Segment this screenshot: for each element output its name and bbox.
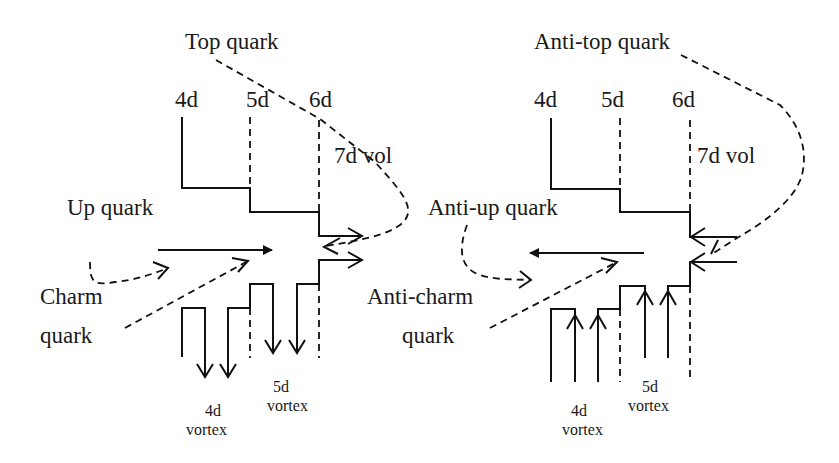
top-quark-label: Top quark (185, 29, 279, 54)
vortex-5d-label-line2: vortex (267, 397, 308, 414)
anti-up-quark-label: Anti-up quark (428, 195, 558, 220)
anti-top-quark-label: Anti-top quark (534, 29, 671, 54)
antiquark-diagram: Anti-top quark 4d 5d 6d 7d vol Anti-up q… (367, 29, 804, 438)
up-quark-path (90, 262, 168, 283)
vortex-4d-label-line1: 4d (571, 402, 587, 419)
dim-4d-label: 4d (534, 87, 558, 112)
vol-7d-label: 7d vol (697, 143, 755, 168)
charm-quark-path (125, 261, 248, 328)
arrowhead-open-icon (324, 238, 340, 254)
quark-antiquark-diagram: Top quark 4d 5d 6d 7d vol Up quark Charm… (0, 0, 839, 463)
dim-5d-label: 5d (601, 87, 625, 112)
vol-7d-label: 7d vol (334, 143, 392, 168)
lower-staircase-mid (228, 284, 273, 377)
upper-staircase (551, 118, 737, 237)
upper-staircase (182, 117, 362, 236)
anti-charm-quark-label-line1: Anti-charm (367, 284, 473, 309)
dim-6d-label: 6d (309, 87, 333, 112)
quark-diagram: Top quark 4d 5d 6d 7d vol Up quark Charm… (40, 29, 408, 438)
dim-6d-label: 6d (672, 87, 696, 112)
dim-5d-label: 5d (246, 87, 270, 112)
vortex-4d-label-line2: vortex (562, 421, 603, 438)
lower-staircase-mid (598, 286, 645, 382)
lower-staircase-left (182, 308, 205, 377)
vortex-5d-label-line1: 5d (642, 378, 658, 395)
lower-staircase-right (297, 260, 362, 352)
vortex-4d-label-line1: 4d (205, 402, 221, 419)
vortex-5d-label-line2: vortex (628, 397, 669, 414)
charm-quark-label-line2: quark (40, 323, 93, 348)
anti-charm-quark-label-line2: quark (402, 323, 455, 348)
arrowhead-open-icon (232, 258, 248, 272)
vortex-4d-label-line2: vortex (186, 421, 227, 438)
lower-staircase-right (668, 262, 737, 358)
vortex-5d-label-line1: 5d (273, 378, 289, 395)
dim-4d-label: 4d (175, 87, 199, 112)
charm-quark-label-line1: Charm (40, 284, 103, 309)
up-quark-label: Up quark (67, 195, 154, 220)
